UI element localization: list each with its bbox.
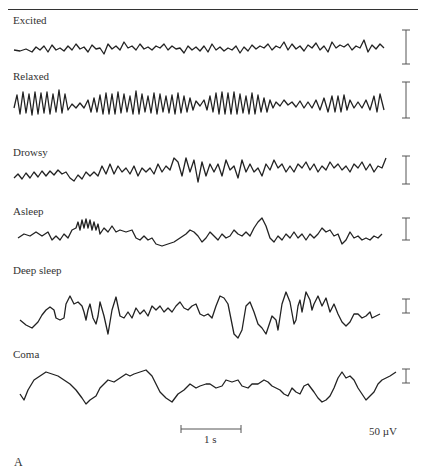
panel-label: A [14,455,23,470]
eeg-traces [0,0,428,474]
time-scale-bar [181,425,241,433]
trace-asleep [18,218,382,246]
time-scale-label: 1 s [204,433,217,445]
trace-relaxed [14,90,384,115]
amplitude-scale-label: 50 µV [369,425,397,437]
trace-coma [20,370,396,404]
amplitude-scale-bars [402,30,410,383]
trace-excited [14,40,384,54]
trace-drowsy [14,158,386,182]
trace-deep-sleep [20,292,380,338]
